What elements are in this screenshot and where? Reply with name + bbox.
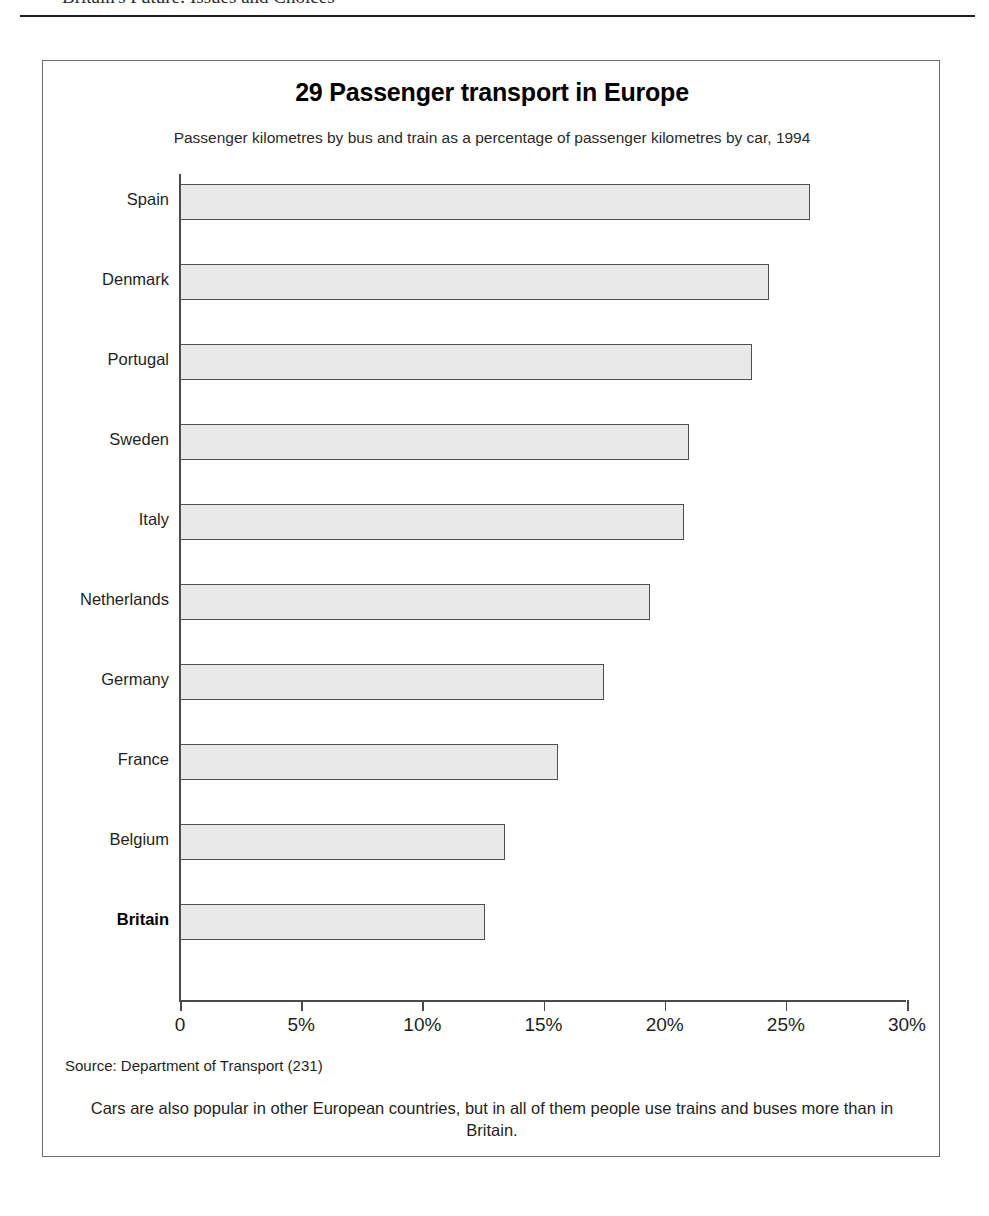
x-axis-tick <box>301 1000 303 1011</box>
x-axis-tick-label: 5% <box>266 1014 336 1036</box>
x-axis-tick-label: 30% <box>872 1014 942 1036</box>
running-head-text: Britain's Future: Issues and Choices <box>62 0 335 8</box>
bar-label-belgium: Belgium <box>109 830 169 849</box>
bar-label-denmark: Denmark <box>102 270 169 289</box>
x-axis-tick <box>665 1000 667 1011</box>
bar-britain <box>180 904 485 940</box>
bar-sweden <box>180 424 689 460</box>
x-axis-tick-label: 25% <box>751 1014 821 1036</box>
bar-row: Netherlands <box>43 584 941 620</box>
running-head: Britain's Future: Issues and Choices <box>0 0 989 16</box>
x-axis-line <box>179 1000 906 1002</box>
x-axis-tick <box>786 1000 788 1011</box>
figure-box: 29 Passenger transport in Europe Passeng… <box>42 60 940 1157</box>
bar-netherlands <box>180 584 650 620</box>
x-axis-tick-label: 20% <box>630 1014 700 1036</box>
bar-row: Denmark <box>43 264 941 300</box>
x-axis-tick-label: 0 <box>145 1014 215 1036</box>
x-axis-tick-label: 10% <box>387 1014 457 1036</box>
bar-belgium <box>180 824 505 860</box>
x-axis-tick <box>180 1000 182 1011</box>
bar-label-spain: Spain <box>127 190 169 209</box>
bar-chart-plot: SpainDenmarkPortugalSwedenItalyNetherlan… <box>43 61 941 1158</box>
bar-italy <box>180 504 684 540</box>
source-note: Source: Department of Transport (231) <box>65 1057 323 1074</box>
bar-row: France <box>43 744 941 780</box>
bar-label-netherlands: Netherlands <box>80 590 169 609</box>
bar-germany <box>180 664 604 700</box>
bar-row: Portugal <box>43 344 941 380</box>
bar-row: Germany <box>43 664 941 700</box>
bar-denmark <box>180 264 769 300</box>
x-axis-tick <box>544 1000 546 1011</box>
bar-france <box>180 744 558 780</box>
bar-label-sweden: Sweden <box>109 430 169 449</box>
bar-portugal <box>180 344 752 380</box>
x-axis-tick <box>422 1000 424 1011</box>
bar-row: Belgium <box>43 824 941 860</box>
bar-label-portugal: Portugal <box>108 350 169 369</box>
bar-row: Britain <box>43 904 941 940</box>
header-divider <box>20 15 975 17</box>
x-axis-tick-label: 15% <box>509 1014 579 1036</box>
bar-spain <box>180 184 810 220</box>
bar-row: Spain <box>43 184 941 220</box>
figure-caption: Cars are also popular in other European … <box>83 1097 901 1142</box>
bar-label-italy: Italy <box>139 510 169 529</box>
bar-row: Italy <box>43 504 941 540</box>
x-axis-tick <box>907 1000 909 1011</box>
bar-label-britain: Britain <box>117 910 169 929</box>
bar-label-france: France <box>118 750 169 769</box>
bar-row: Sweden <box>43 424 941 460</box>
bar-label-germany: Germany <box>101 670 169 689</box>
